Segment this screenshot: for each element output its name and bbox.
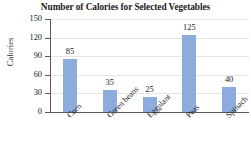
y-axis-tick-label: 150	[14, 15, 42, 23]
calories-bar-chart: Number of Calories for Selected Vegetabl…	[0, 0, 251, 161]
y-axis-tick-label: 60	[14, 71, 42, 79]
bar-value-label: 40	[215, 76, 243, 84]
y-axis-tick-label: 90	[14, 52, 42, 60]
bar	[182, 35, 196, 113]
chart-title: Number of Calories for Selected Vegetabl…	[0, 2, 251, 13]
bar-value-label: 125	[175, 24, 203, 32]
bar-value-label: 85	[56, 48, 84, 56]
bar-value-label: 35	[96, 79, 124, 87]
y-axis-tick-label: 30	[14, 89, 42, 97]
y-axis-tick-label: 120	[14, 34, 42, 42]
plot-area: 85352512540	[50, 19, 249, 112]
y-axis-tick-label: 0	[14, 108, 42, 116]
